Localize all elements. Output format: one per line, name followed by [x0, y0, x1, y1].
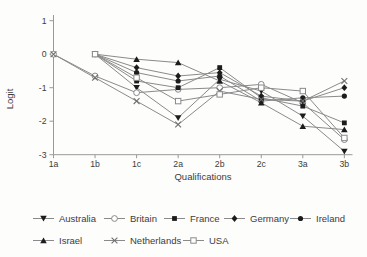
- y-tick-label: 1: [42, 16, 47, 26]
- point-usa-1b: [92, 52, 97, 57]
- series-points-usa: [92, 52, 347, 141]
- x-tick-label: 2a: [173, 159, 183, 169]
- diamond-filled-icon: [175, 73, 181, 80]
- square-open-icon: [217, 92, 222, 97]
- legend-item-usa: USA: [183, 235, 229, 246]
- circle-filled-icon: [342, 93, 347, 98]
- point-ireland-1c: [134, 70, 139, 75]
- legend-marker-usa: [191, 238, 196, 243]
- point-usa-2c: [259, 85, 264, 90]
- square-filled-icon: [342, 120, 347, 125]
- square-open-icon: [191, 238, 196, 243]
- diamond-filled-icon: [134, 64, 140, 71]
- square-open-icon: [300, 88, 305, 93]
- figure-canvas: 10-1-2-31a1b1c2a2b2c3a3b Logit Qualifica…: [0, 0, 367, 257]
- square-open-icon: [134, 75, 139, 80]
- square-open-icon: [175, 98, 180, 103]
- x-tick-label: 2b: [215, 159, 225, 169]
- legend-item-israel: Israel: [33, 235, 82, 246]
- point-france-2a: [176, 85, 181, 90]
- legend-item-france: France: [164, 213, 220, 224]
- x-axis-title: Qualifications: [174, 171, 231, 182]
- circle-filled-icon: [217, 73, 222, 78]
- legend-item-britain: Britain: [104, 213, 157, 224]
- logit-qualifications-chart: 10-1-2-31a1b1c2a2b2c3a3b Logit Qualifica…: [0, 0, 367, 257]
- y-axis-title: Logit: [4, 88, 15, 109]
- point-usa-3a: [300, 88, 305, 93]
- legend-marker-britain: [112, 216, 118, 222]
- point-netherlands-2a: [175, 122, 181, 128]
- circle-filled-icon: [176, 78, 181, 83]
- legend-item-germany: Germany: [224, 213, 289, 224]
- point-ireland-2a: [176, 78, 181, 83]
- diamond-filled-icon: [232, 215, 238, 222]
- legend-label-usa: USA: [209, 235, 229, 246]
- point-germany-3b: [341, 84, 347, 91]
- x-tick-label: 3a: [298, 159, 308, 169]
- square-filled-icon: [172, 216, 177, 221]
- legend-label-britain: Britain: [130, 213, 157, 224]
- point-germany-2a: [175, 73, 181, 80]
- legend: AustraliaBritainFranceGermanyIrelandIsra…: [33, 213, 345, 246]
- point-usa-3b: [342, 135, 347, 140]
- legend-label-israel: Israel: [59, 235, 82, 246]
- y-tick-label: -2: [39, 116, 47, 126]
- diamond-filled-icon: [341, 84, 347, 91]
- legend-label-australia: Australia: [59, 213, 97, 224]
- point-netherlands-3b: [341, 78, 347, 84]
- point-usa-2a: [175, 98, 180, 103]
- legend-marker-germany: [232, 215, 238, 222]
- point-ireland-2b: [217, 73, 222, 78]
- point-usa-1c: [134, 75, 139, 80]
- point-usa-2b: [217, 92, 222, 97]
- square-open-icon: [92, 52, 97, 57]
- triangle-down-icon: [175, 115, 182, 121]
- point-britain-1c: [134, 90, 140, 96]
- legend-item-netherlands: Netherlands: [104, 235, 181, 246]
- x-tick-label: 2c: [257, 159, 267, 169]
- y-tick-label: -3: [39, 150, 47, 160]
- legend-item-australia: Australia: [33, 213, 97, 224]
- legend-label-germany: Germany: [250, 213, 289, 224]
- circle-open-icon: [134, 90, 140, 96]
- legend-marker-france: [172, 216, 177, 221]
- circle-open-icon: [112, 216, 118, 222]
- legend-marker-ireland: [298, 216, 303, 221]
- square-open-icon: [342, 135, 347, 140]
- series-markers: [51, 51, 348, 155]
- point-ireland-3b: [342, 93, 347, 98]
- legend-item-ireland: Ireland: [290, 213, 345, 224]
- legend-label-netherlands: Netherlands: [130, 235, 181, 246]
- point-france-3b: [342, 120, 347, 125]
- triangle-down-icon: [341, 149, 348, 155]
- circle-filled-icon: [134, 70, 139, 75]
- point-netherlands-1c: [134, 98, 140, 104]
- legend-label-ireland: Ireland: [316, 213, 345, 224]
- x-tick-label: 1b: [90, 159, 100, 169]
- x-tick-label: 1c: [132, 159, 142, 169]
- y-tick-label: -1: [39, 83, 47, 93]
- y-tick-label: 0: [42, 49, 47, 59]
- point-australia-3b: [341, 149, 348, 155]
- point-germany-1c: [134, 64, 140, 71]
- x-tick-label: 1a: [49, 159, 59, 169]
- legend-label-france: France: [190, 213, 220, 224]
- square-filled-icon: [176, 85, 181, 90]
- x-tick-label: 3b: [340, 159, 350, 169]
- circle-filled-icon: [298, 216, 303, 221]
- square-open-icon: [259, 85, 264, 90]
- axis-spines: [54, 15, 353, 155]
- point-australia-2a: [175, 115, 182, 121]
